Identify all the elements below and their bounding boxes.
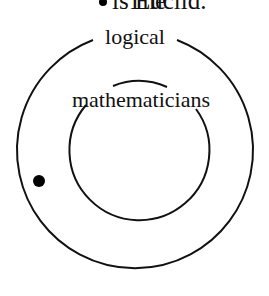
inner-circle-mathematicians (69, 105, 209, 220)
euclid-dot-icon (33, 175, 45, 187)
caption-dot-icon (99, 0, 107, 6)
outer-label: logical (105, 24, 165, 49)
outer-circle-logical (17, 40, 253, 268)
inner-label: mathematicians (72, 87, 210, 112)
caption-after: is Euclid. (112, 0, 206, 14)
euler-diagram: The is Euclid. logical mathematicians (0, 0, 269, 296)
